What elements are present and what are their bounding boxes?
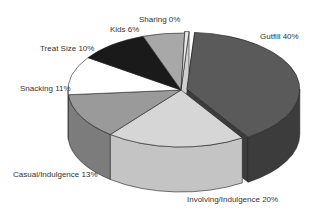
label-kids: Kids 6% bbox=[110, 25, 139, 34]
label-casual-indulgence: Casual/Indulgence 13% bbox=[13, 170, 98, 179]
label-involving-indulgence: Involving/Indulgence 20% bbox=[187, 195, 278, 204]
label-snacking: Snacking 11% bbox=[20, 84, 71, 93]
label-sharing: Sharing 0% bbox=[139, 15, 180, 24]
label-gutfill: Gutfill 40% bbox=[260, 32, 299, 41]
label-treat-size: Treat Size 10% bbox=[40, 44, 94, 53]
